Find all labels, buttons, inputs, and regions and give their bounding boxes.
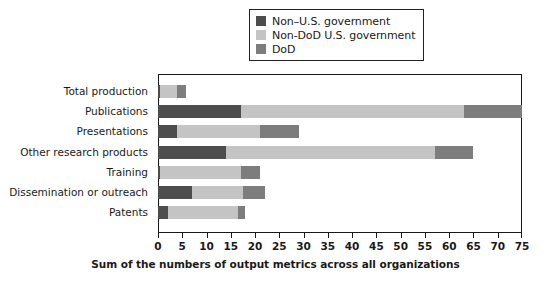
legend-item: DoD (256, 42, 415, 56)
bar-segment (158, 186, 192, 199)
bar-segment (260, 125, 299, 138)
x-axis-tick (304, 233, 305, 238)
bar-segment (160, 166, 240, 179)
category-label: Training (107, 166, 148, 179)
x-axis-tick (425, 233, 426, 238)
bar-row (158, 125, 522, 138)
bar-segment (192, 186, 243, 199)
bar-segment (435, 146, 474, 159)
x-axis-tick-label: 30 (296, 240, 311, 252)
legend-swatch-icon (256, 30, 266, 40)
category-label: Patents (109, 206, 148, 219)
x-axis-tick (207, 233, 208, 238)
bar-segment (226, 146, 435, 159)
bar-segment (243, 186, 265, 199)
legend-label: Non–U.S. government (272, 16, 390, 27)
x-axis: 051015202530354045505560657075 (158, 233, 522, 255)
bar-segment (238, 206, 245, 219)
x-axis-title: Sum of the numbers of output metrics acr… (0, 258, 551, 270)
x-axis-tick (401, 233, 402, 238)
x-axis-tick-label: 45 (369, 240, 384, 252)
bar-row (158, 206, 522, 219)
bar-segment (177, 85, 185, 98)
legend-swatch-icon (256, 16, 266, 26)
x-axis-tick-label: 40 (345, 240, 360, 252)
x-axis-tick-label: 60 (442, 240, 457, 252)
plot-area (158, 74, 522, 233)
legend-swatch-icon (256, 44, 266, 54)
x-axis-tick-label: 10 (199, 240, 214, 252)
x-axis-tick-label: 55 (418, 240, 433, 252)
legend-label: DoD (272, 44, 295, 55)
bar-segment (241, 166, 260, 179)
x-axis-tick (279, 233, 280, 238)
bar-segment (241, 105, 464, 118)
x-axis-tick-label: 5 (179, 240, 186, 252)
x-axis-tick-label: 20 (248, 240, 263, 252)
bar-row (158, 85, 522, 98)
x-axis-tick (376, 233, 377, 238)
category-label: Total production (64, 85, 148, 98)
category-label: Other research products (20, 146, 148, 159)
x-axis-tick-label: 35 (321, 240, 336, 252)
x-axis-tick-label: 65 (466, 240, 481, 252)
x-axis-tick-label: 50 (393, 240, 408, 252)
bar-segment (464, 105, 522, 118)
chart-legend: Non–U.S. governmentNon-DoD U.S. governme… (249, 9, 424, 61)
bar-row (158, 146, 522, 159)
category-label: Dissemination or outreach (9, 186, 148, 199)
bar-row (158, 105, 522, 118)
bar-row (158, 166, 522, 179)
x-axis-tick-label: 15 (223, 240, 238, 252)
legend-item: Non–U.S. government (256, 14, 415, 28)
bar-segment (158, 105, 241, 118)
x-axis-tick (255, 233, 256, 238)
x-axis-tick-label: 0 (154, 240, 161, 252)
x-axis-tick (231, 233, 232, 238)
x-axis-tick (328, 233, 329, 238)
bar-segment (158, 146, 226, 159)
bar-row (158, 186, 522, 199)
legend-label: Non-DoD U.S. government (272, 30, 415, 41)
bar-segment (158, 125, 177, 138)
chart-figure: Non–U.S. governmentNon-DoD U.S. governme… (0, 0, 551, 284)
category-label: Publications (85, 105, 148, 118)
x-axis-tick-label: 25 (272, 240, 287, 252)
x-axis-tick (158, 233, 159, 238)
x-axis-tick (449, 233, 450, 238)
category-label: Presentations (77, 125, 148, 138)
bar-segment (158, 206, 168, 219)
x-axis-tick (473, 233, 474, 238)
bar-segment (177, 125, 260, 138)
legend-item: Non-DoD U.S. government (256, 28, 415, 42)
x-axis-tick-label: 70 (490, 240, 505, 252)
x-axis-tick (521, 233, 522, 238)
x-axis-tick (352, 233, 353, 238)
bar-segment (160, 85, 177, 98)
x-axis-tick-label: 75 (515, 240, 530, 252)
bar-segment (168, 206, 238, 219)
x-axis-tick (182, 233, 183, 238)
x-axis-tick (498, 233, 499, 238)
